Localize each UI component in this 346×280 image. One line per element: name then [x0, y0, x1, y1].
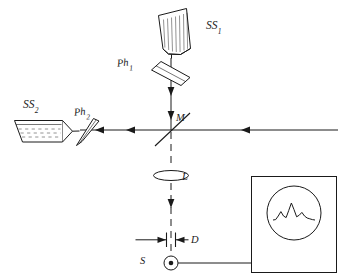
diagram-canvas: [0, 0, 346, 280]
aperture-d: [136, 233, 189, 248]
ss2-nose: [63, 121, 73, 143]
beam-arrow-incoming-right: [241, 127, 250, 134]
beam-arrow-vertical-lower: [168, 199, 175, 208]
detector-center-dot: [169, 261, 174, 266]
label-ss1: SS1: [206, 20, 221, 34]
ss2-body-outline: [15, 121, 63, 143]
label-ss2: SS2: [23, 99, 38, 113]
label-beamsplitter-m: M: [176, 113, 185, 124]
oscilloscope-screen: [267, 186, 321, 240]
beam-arrow-vertical-upper-2: [168, 111, 175, 120]
sample-cell-ss2: [15, 121, 80, 143]
sample-cell-ss1: [159, 9, 191, 59]
label-detector-s: S: [140, 256, 145, 267]
label-ph1: Ph1: [116, 57, 132, 71]
label-aperture-d: D: [191, 235, 199, 246]
ph2-plate-midline: [79, 120, 96, 144]
beam-arrow-vertical-upper-1: [168, 87, 175, 96]
phase-plate-ph2: [77, 119, 100, 146]
aperture-arrow-right: [176, 237, 185, 243]
label-lens-l: L: [182, 172, 188, 183]
aperture-arrow-left: [158, 237, 167, 243]
ss1-body-outline: [159, 9, 191, 55]
detector-s: [164, 256, 178, 270]
label-ph2: Ph2: [73, 106, 89, 120]
beam-arrow-horizontal-left-2: [126, 127, 135, 134]
optical-diagram: SS1 SS2 Ph1 Ph2 M L D S: [0, 0, 346, 280]
beam-arrow-horizontal-left-1: [95, 127, 104, 134]
oscilloscope: [252, 177, 337, 273]
